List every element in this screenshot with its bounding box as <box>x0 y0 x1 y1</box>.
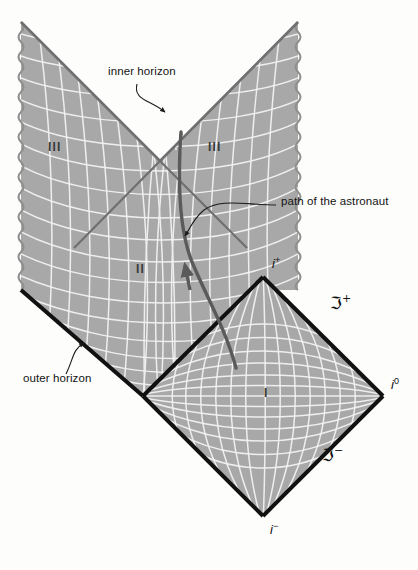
region-label-III-left: III <box>48 141 62 153</box>
region-label-II: II <box>136 263 145 275</box>
penrose-diagram-canvas <box>0 0 418 570</box>
i-plus-sup: + <box>275 255 280 265</box>
outer-horizon-leader <box>66 343 84 374</box>
i-zero-sup: 0 <box>394 376 399 386</box>
label-future-null-infinity: ℑ+ <box>330 293 351 312</box>
scri-plus-sup: + <box>342 292 351 305</box>
inner-horizon-leader <box>136 84 165 112</box>
label-future-timelike-infinity: i+ <box>272 256 280 270</box>
label-past-timelike-infinity: i− <box>270 522 278 536</box>
i-minus-sup: − <box>273 521 278 531</box>
region-label-I: I <box>264 387 269 399</box>
callout-path-of-the-astronaut: path of the astronaut <box>281 196 389 208</box>
label-past-null-infinity: ℑ− <box>322 445 343 464</box>
callout-outer-horizon: outer horizon <box>23 373 91 385</box>
scri-minus-sup: − <box>334 444 343 457</box>
scri-minus-base: ℑ <box>322 445 334 465</box>
label-spatial-infinity: i0 <box>391 377 399 391</box>
scri-plus-base: ℑ <box>330 293 342 313</box>
callout-inner-horizon: inner horizon <box>108 66 176 78</box>
region-label-III-right: III <box>208 141 222 153</box>
penrose-diagram-figure: inner horizon path of the astronaut oute… <box>0 0 418 570</box>
